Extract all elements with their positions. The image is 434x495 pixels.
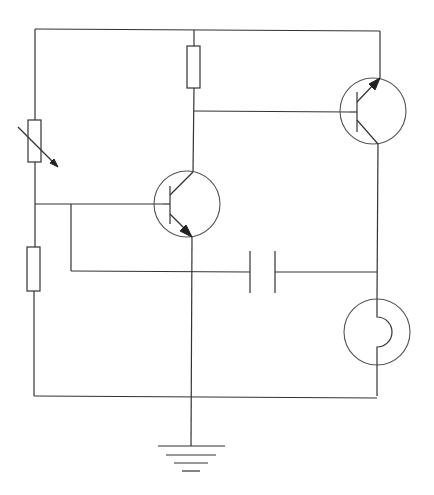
lamp-icon bbox=[344, 299, 410, 366]
circuit-diagram bbox=[0, 0, 434, 495]
pnp-transistor-icon bbox=[340, 31, 406, 144]
left-branch-wire bbox=[34, 29, 35, 396]
top-rail-wire bbox=[35, 29, 380, 31]
base-bias-wire bbox=[35, 204, 250, 272]
capacitor-icon bbox=[250, 251, 377, 293]
t2-base-wire bbox=[194, 111, 350, 112]
ground-icon bbox=[158, 446, 225, 471]
resistor-left-icon bbox=[27, 247, 40, 291]
bottom-rail-wire bbox=[34, 396, 377, 398]
resistor-collector-icon bbox=[187, 30, 200, 172]
npn-transistor-icon bbox=[154, 171, 220, 237]
variable-resistor-icon bbox=[18, 120, 58, 167]
t1-emitter-wire bbox=[191, 237, 192, 446]
